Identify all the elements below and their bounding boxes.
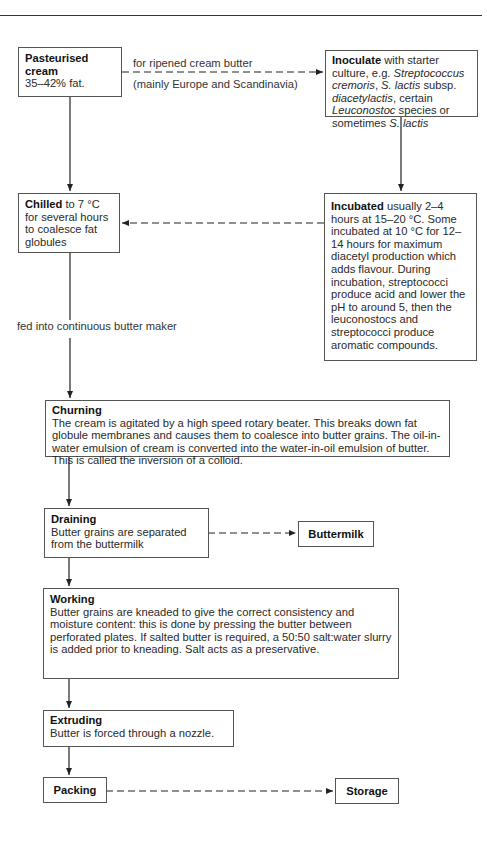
node-text: usually 2–4 hours at 15–20 °C. Some incu… <box>331 200 465 351</box>
edge-label-region: (mainly Europe and Scandinavia) <box>133 78 298 91</box>
node-buttermilk: Buttermilk <box>298 521 374 547</box>
node-draining: Draining Butter grains are separated fro… <box>44 508 209 558</box>
edge-label-fed: fed into continuous butter maker <box>17 320 179 333</box>
node-incubated: Incubated usually 2–4 hours at 15–20 °C.… <box>324 193 477 361</box>
node-title: Working <box>50 593 392 606</box>
node-title: Chilled <box>25 198 62 210</box>
node-packing: Packing <box>43 777 107 803</box>
node-text: Butter grains are separated from the but… <box>51 526 187 551</box>
node-working: Working Butter grains are kneaded to giv… <box>43 588 399 679</box>
node-extruding: Extruding Butter is forced through a noz… <box>43 710 234 747</box>
species-name: S. lactis <box>381 79 420 91</box>
edge-label-ripened: for ripened cream butter <box>133 57 252 70</box>
node-text: Butter is forced through a nozzle. <box>50 727 214 739</box>
node-title: Pasteurised <box>25 52 115 65</box>
node-storage: Storage <box>335 778 399 804</box>
species-name: S. lactis <box>389 117 428 129</box>
node-churning: Churning The cream is agitated by a high… <box>45 400 450 457</box>
node-title: Packing <box>54 784 97 797</box>
node-title-line2: cream <box>25 65 115 78</box>
node-chilled: Chilled to 7 °C for several hours to coa… <box>18 193 120 253</box>
node-title: Storage <box>346 785 388 798</box>
node-text: 35–42% fat. <box>25 77 85 89</box>
species-name: diacetylactis <box>332 92 393 104</box>
node-text: subsp. <box>420 79 456 91</box>
node-title: Buttermilk <box>308 528 363 541</box>
node-title: Incubated <box>331 200 384 212</box>
node-title: Extruding <box>50 714 227 727</box>
node-text: Butter grains are kneaded to give the co… <box>50 606 391 656</box>
node-title: Churning <box>52 404 443 417</box>
species-name: Leuconostoc <box>332 104 395 116</box>
node-inoculate: Inoculate with starter culture, e.g. Str… <box>325 50 478 117</box>
node-title: Draining <box>51 513 202 526</box>
node-pasteurised-cream: Pasteurised cream 35–42% fat. <box>18 47 122 97</box>
node-text: , certain <box>393 92 433 104</box>
node-text: The cream is agitated by a high speed ro… <box>52 417 440 467</box>
node-title: Inoculate <box>332 54 381 66</box>
